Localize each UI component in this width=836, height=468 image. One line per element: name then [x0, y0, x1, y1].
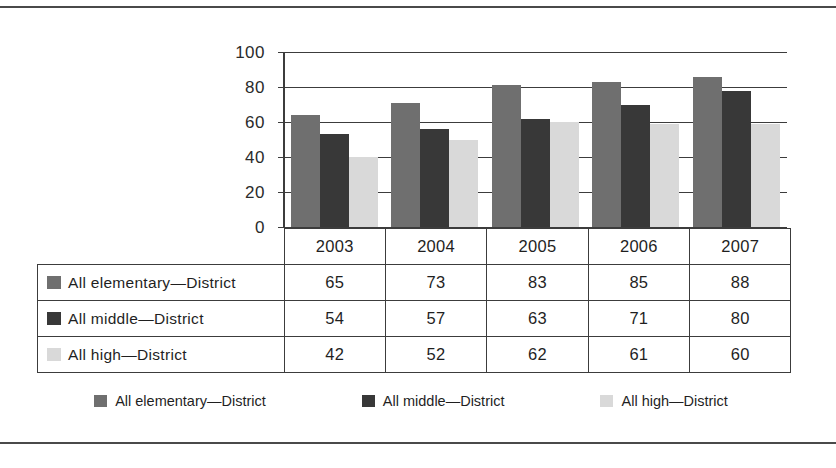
table-cell-r0-c4: 88	[690, 265, 791, 301]
table-cell-r2-c2: 62	[487, 337, 588, 373]
bar-group-inner	[391, 103, 478, 227]
bar-2006-series0	[592, 82, 621, 227]
data-table: 20032004200520062007All elementary—Distr…	[37, 228, 791, 373]
bar-2004-series0	[391, 103, 420, 227]
table-cell-r0-c2: 83	[487, 265, 588, 301]
table-row-label-text: All elementary—District	[68, 274, 236, 291]
bar-2003-series1	[320, 134, 349, 227]
table-cell-r1-c0: 54	[284, 301, 385, 337]
table-cell-r0-c1: 73	[385, 265, 486, 301]
legend-swatch-icon	[600, 395, 613, 407]
y-tick-100: 100	[278, 52, 285, 53]
table-cell-r2-c4: 60	[690, 337, 791, 373]
legend-item-1: All middle—District	[362, 393, 505, 409]
table-column-header-2004: 2004	[385, 229, 486, 265]
bar-2007-series0	[693, 77, 722, 228]
bar-2007-series2	[751, 124, 780, 227]
table-row-label-text: All middle—District	[68, 310, 204, 327]
table-column-header-2006: 2006	[588, 229, 689, 265]
bar-2003-series2	[349, 157, 378, 227]
bar-2007-series1	[722, 91, 751, 228]
bar-group-inner	[693, 77, 780, 228]
legend-swatch-icon	[362, 395, 375, 407]
legend-swatch-icon	[94, 395, 107, 407]
series-swatch-icon	[47, 348, 61, 361]
table-cell-r0-c0: 65	[284, 265, 385, 301]
table-cell-r2-c1: 52	[385, 337, 486, 373]
bar-group-inner	[291, 115, 378, 227]
table-column-header-2007: 2007	[690, 229, 791, 265]
bar-group-2007	[687, 52, 787, 227]
table-cell-r2-c3: 61	[588, 337, 689, 373]
table-cell-r1-c1: 57	[385, 301, 486, 337]
bar-chart-figure: 100806040200 20032004200520062007All ele…	[0, 0, 836, 442]
y-tick-80: 80	[278, 87, 285, 88]
y-tick-label-20: 20	[245, 183, 265, 203]
bar-2004-series1	[420, 129, 449, 227]
table-cell-r1-c4: 80	[690, 301, 791, 337]
y-tick-40: 40	[278, 157, 285, 158]
bar-groups	[285, 52, 787, 227]
y-tick-20: 20	[278, 192, 285, 193]
bar-2006-series1	[621, 105, 650, 228]
bar-2003-series0	[291, 115, 320, 227]
series-swatch-icon	[47, 276, 61, 289]
table-row-label-text: All high—District	[68, 346, 187, 363]
table-cell-r1-c3: 71	[588, 301, 689, 337]
table-column-header-2003: 2003	[284, 229, 385, 265]
table-row-label-1: All middle—District	[38, 301, 285, 337]
bar-group-inner	[492, 85, 579, 227]
table-cell-r0-c3: 85	[588, 265, 689, 301]
legend-item-2: All high—District	[600, 393, 727, 409]
table-row-label-0: All elementary—District	[38, 265, 285, 301]
bar-2004-series2	[449, 140, 478, 228]
bar-group-2005	[486, 52, 586, 227]
table-cell-r2-c0: 42	[284, 337, 385, 373]
y-tick-label-80: 80	[245, 78, 265, 98]
table-row: All elementary—District6573838588	[38, 265, 791, 301]
bar-2005-series1	[521, 119, 550, 228]
y-tick-label-60: 60	[245, 113, 265, 133]
legend-item-label: All high—District	[621, 393, 727, 409]
bar-2005-series0	[492, 85, 521, 227]
plot-area: 100806040200	[283, 52, 785, 227]
legend-item-label: All elementary—District	[115, 393, 266, 409]
table-column-header-2005: 2005	[487, 229, 588, 265]
series-swatch-icon	[47, 312, 61, 325]
legend-item-0: All elementary—District	[94, 393, 266, 409]
bar-2005-series2	[550, 122, 579, 227]
table-row-label-2: All high—District	[38, 337, 285, 373]
bar-2006-series2	[650, 124, 679, 227]
table-row: All high—District4252626160	[38, 337, 791, 373]
bar-group-inner	[592, 82, 679, 227]
y-tick-label-40: 40	[245, 148, 265, 168]
bar-group-2004	[385, 52, 485, 227]
legend-item-label: All middle—District	[383, 393, 505, 409]
table-row: All middle—District5457637180	[38, 301, 791, 337]
table-cell-r1-c2: 63	[487, 301, 588, 337]
chart-legend: All elementary—DistrictAll middle—Distri…	[37, 393, 785, 409]
bar-group-2003	[285, 52, 385, 227]
page-rule-bottom	[0, 442, 836, 444]
table-header-row: 20032004200520062007	[38, 229, 791, 265]
bar-group-2006	[586, 52, 686, 227]
y-tick-60: 60	[278, 122, 285, 123]
y-tick-label-100: 100	[235, 43, 265, 63]
table-corner-cell	[38, 229, 285, 265]
